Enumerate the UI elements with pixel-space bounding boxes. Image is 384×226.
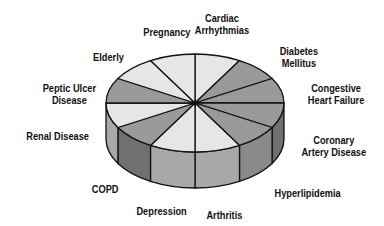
label-pregnancy: Pregnancy [143,26,190,38]
label-cardiac-arrhythmias: Cardiac Arrhythmias [195,12,249,36]
label-peptic-ulcer-disease: Peptic Ulcer Disease [42,82,95,106]
label-copd: COPD [92,183,119,195]
label-renal-disease: Renal Disease [26,130,89,142]
label-coronary-artery-disease: Coronary Artery Disease [301,134,366,158]
label-hyperlipidemia: Hyperlipidemia [274,187,340,199]
pie-center-dot [193,101,198,106]
label-depression: Depression [136,205,186,217]
label-elderly: Elderly [93,51,124,63]
label-congestive-heart-failure: Congestive Heart Failure [308,82,364,106]
label-diabetes-mellitus: Diabetes Mellitus [280,45,319,69]
label-arthritis: Arthritis [206,209,242,221]
